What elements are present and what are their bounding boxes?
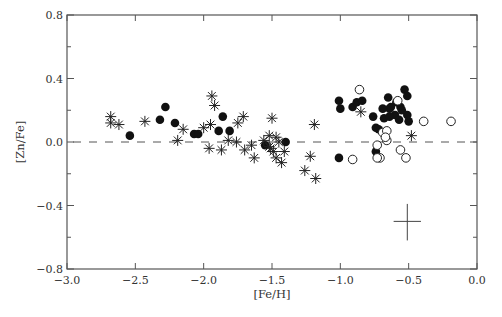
y-tick-label: −0.8 — [36, 263, 63, 276]
asterisk-point — [139, 116, 150, 127]
filled-circle-point — [385, 112, 394, 121]
asterisk-point — [209, 100, 220, 111]
asterisk-point — [223, 135, 234, 146]
filled-circle-point — [369, 112, 378, 121]
asterisk-point — [113, 119, 124, 130]
asterisk-point — [406, 130, 417, 141]
asterisk-point — [355, 106, 366, 117]
asterisk-point — [232, 117, 243, 128]
open-circle-point — [419, 117, 428, 126]
asterisk-point — [305, 151, 316, 162]
filled-circle-point — [404, 117, 413, 126]
asterisk-point — [204, 143, 215, 154]
asterisk-point — [299, 165, 310, 176]
x-axis-label: [Fe/H] — [253, 287, 290, 301]
y-tick-label: 0.0 — [46, 136, 64, 149]
open-circle-point — [355, 85, 364, 94]
y-tick-label: 0.8 — [46, 9, 64, 22]
scatter-chart: −3.0−2.5−2.0−1.5−1.0−0.50.0−0.8−0.40.00.… — [0, 0, 502, 317]
filled-circle-point — [171, 119, 180, 128]
filled-circle-point — [384, 93, 393, 102]
asterisk-point — [105, 117, 116, 128]
tick-labels: −3.0−2.5−2.0−1.5−1.0−0.50.0−0.8−0.40.00.… — [36, 9, 485, 287]
y-tick-label: −0.4 — [36, 200, 63, 213]
filled-circle-point — [335, 96, 344, 105]
asterisk-point — [216, 144, 227, 155]
open-circle-point — [447, 117, 456, 126]
asterisk-point — [310, 173, 321, 184]
filled-circle-point — [156, 115, 165, 124]
x-tick-label: 0.0 — [468, 274, 486, 287]
asterisk-point — [178, 124, 189, 135]
filled-circle-point — [126, 131, 135, 140]
filled-circle-point — [398, 106, 407, 115]
open-circle-point — [381, 133, 390, 142]
asterisk-point — [265, 143, 276, 154]
y-axis-label: [Zn/Fe] — [13, 121, 27, 163]
x-tick-label: −2.5 — [122, 274, 149, 287]
asterisk-point — [309, 119, 320, 130]
asterisk-point — [246, 140, 257, 151]
filled-circle-point — [219, 112, 228, 121]
filled-circle-point — [214, 127, 223, 136]
asterisk-point — [231, 137, 242, 148]
filled-circle-point — [378, 104, 387, 113]
error-bar-group — [394, 204, 421, 241]
filled-circle-point — [225, 127, 234, 136]
filled-circle-point — [335, 154, 344, 163]
filled-circle-point — [395, 115, 404, 124]
x-tick-label: −1.5 — [259, 274, 286, 287]
x-tick-label: −0.5 — [395, 274, 422, 287]
filled-circle-point — [194, 130, 203, 139]
asterisk-point — [264, 130, 275, 141]
asterisk-point — [249, 152, 260, 163]
asterisk-point — [279, 146, 290, 157]
asterisk-point — [271, 152, 282, 163]
filled-circle-point — [161, 103, 170, 112]
asterisk-point — [172, 135, 183, 146]
x-tick-label: −1.0 — [327, 274, 354, 287]
asterisk-point — [206, 90, 217, 101]
open-circle-point — [373, 154, 382, 163]
open-circle-point — [393, 96, 402, 105]
asterisk-point — [238, 111, 249, 122]
data-points — [105, 85, 455, 184]
asterisk-point — [205, 119, 216, 130]
open-circle-point — [396, 146, 405, 155]
x-tick-label: −2.0 — [190, 274, 217, 287]
open-circle-point — [402, 154, 411, 163]
open-circle-point — [373, 141, 382, 150]
filled-circle-point — [403, 92, 412, 101]
filled-circle-point — [336, 104, 345, 113]
y-tick-label: 0.4 — [46, 73, 64, 86]
asterisk-point — [267, 113, 278, 124]
asterisk-point — [273, 137, 284, 148]
open-circle-point — [348, 155, 357, 164]
filled-circle-point — [358, 96, 367, 105]
asterisk-point — [239, 144, 250, 155]
